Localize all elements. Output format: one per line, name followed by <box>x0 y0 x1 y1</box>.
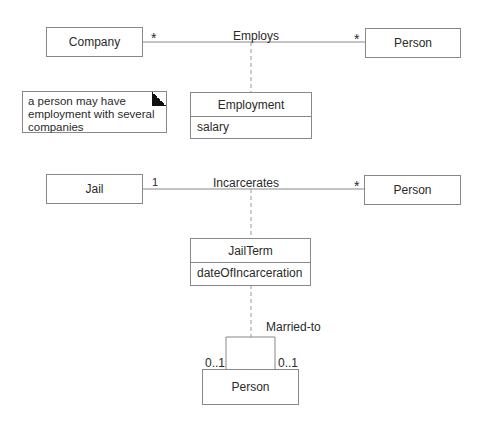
note-line: employment with several <box>28 108 161 121</box>
married-to-association-loop <box>226 337 275 369</box>
multiplicity-person-employs: * <box>354 31 359 47</box>
association-label-incarcerates: Incarcerates <box>213 176 279 190</box>
class-person-incarcerates[interactable]: Person <box>364 175 461 205</box>
class-attribute: salary <box>191 117 311 137</box>
class-name: JailTerm <box>191 239 310 263</box>
association-label-married-to: Married-to <box>266 320 321 334</box>
association-class-jailterm[interactable]: JailTerm dateOfIncarceration <box>190 238 311 286</box>
multiplicity-jail: 1 <box>152 176 158 188</box>
class-name: Person <box>203 370 298 404</box>
class-name: Jail <box>47 175 142 203</box>
multiplicity-company: * <box>151 30 156 46</box>
class-attribute: dateOfIncarceration <box>191 263 310 283</box>
multiplicity-left-married: 0..1 <box>205 356 225 370</box>
class-person-married[interactable]: Person <box>202 369 299 405</box>
class-jail[interactable]: Jail <box>46 174 143 204</box>
connector-lines <box>0 0 488 424</box>
association-label-employs: Employs <box>233 29 279 43</box>
note-employment: a person may have employment with severa… <box>22 91 167 133</box>
note-line: a person may have <box>28 95 161 108</box>
multiplicity-right-married: 0..1 <box>278 356 298 370</box>
class-company[interactable]: Company <box>46 27 143 57</box>
note-line: companies <box>28 121 161 134</box>
association-class-employment[interactable]: Employment salary <box>190 92 312 139</box>
multiplicity-person-incarcerates: * <box>354 178 359 194</box>
class-name: Person <box>365 176 460 204</box>
class-name: Employment <box>191 93 311 117</box>
class-name: Company <box>47 28 142 56</box>
class-name: Person <box>366 29 460 57</box>
note-fold-icon <box>152 92 166 106</box>
class-person-employs[interactable]: Person <box>365 28 461 58</box>
